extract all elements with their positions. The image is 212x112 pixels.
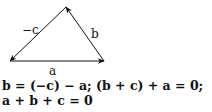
label-b: b <box>91 28 99 40</box>
vector-triangle-diagram <box>0 0 212 75</box>
label-neg-c: −c <box>22 24 39 36</box>
label-a: a <box>49 65 56 77</box>
equation-line-1: b = (−c) − a; (b + c) + a = 0; <box>2 79 203 93</box>
equation-line-2: a + b + c = 0 <box>2 94 93 108</box>
